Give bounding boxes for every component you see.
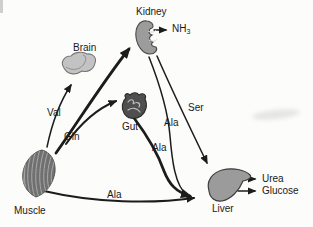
gut-shape xyxy=(122,93,146,119)
urea-label: Urea xyxy=(262,173,284,184)
muscle-organ xyxy=(23,149,55,198)
ser-label: Ser xyxy=(188,102,204,113)
ala-gut-label: Ala xyxy=(152,142,166,153)
ala-muscle-label: Ala xyxy=(107,189,121,200)
nh3-label: NH3 xyxy=(172,23,190,37)
muscle-label: Muscle xyxy=(14,205,46,216)
interorgan-amino-acid-flux-diagram: Kidney NH3 Brain Val Gln Gut Ser Ala Ala… xyxy=(0,0,313,227)
ala-kidney-label: Ala xyxy=(164,117,178,128)
nh3-base: NH xyxy=(172,23,186,34)
gut-organ xyxy=(122,93,146,119)
kidney-organ xyxy=(136,21,157,54)
gln-label: Gln xyxy=(64,131,80,142)
liver-shape xyxy=(208,169,250,201)
kidney-label: Kidney xyxy=(136,6,167,17)
liver-organ xyxy=(208,169,250,201)
gut-label: Gut xyxy=(122,121,138,132)
brain-label: Brain xyxy=(73,42,96,53)
glucose-label: Glucose xyxy=(262,185,299,196)
arrow-gut-liver xyxy=(134,118,190,196)
nh3-subscript: 3 xyxy=(186,28,190,35)
brain-organ xyxy=(62,52,95,74)
brain-shape xyxy=(62,52,95,74)
liver-label: Liver xyxy=(212,203,234,214)
val-label: Val xyxy=(47,107,61,118)
kidney-shape xyxy=(136,21,157,54)
